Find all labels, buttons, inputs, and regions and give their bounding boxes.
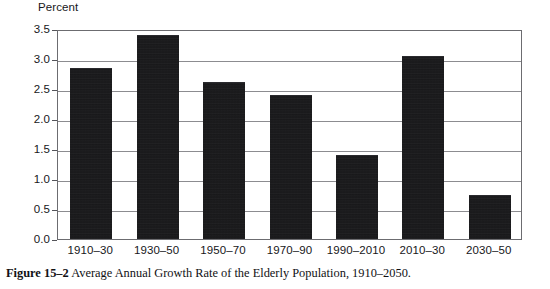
gridline xyxy=(58,61,521,62)
y-axis-tick-label: 0.5 xyxy=(4,204,50,216)
y-axis-title: Percent xyxy=(38,1,78,14)
figure-container: Percent 0.00.51.01.52.02.53.03.5 1910–30… xyxy=(0,0,550,289)
y-axis-tick-label: 0.0 xyxy=(4,234,50,246)
y-axis-tick-mark xyxy=(52,240,57,241)
x-axis-labels: 1910–301930–501950–701970–901990–2010201… xyxy=(57,243,522,261)
x-axis-tick-label: 1910–30 xyxy=(57,243,123,257)
bar xyxy=(336,155,378,239)
y-axis-labels: 0.00.51.01.52.02.53.03.5 xyxy=(0,30,50,240)
bar xyxy=(203,82,245,239)
figure-caption: Figure 15–2 Average Annual Growth Rate o… xyxy=(6,266,546,281)
y-axis-tick-label: 3.0 xyxy=(4,54,50,66)
bar xyxy=(137,35,179,239)
x-axis-tick-label: 1970–90 xyxy=(256,243,322,257)
plot-area xyxy=(57,30,522,240)
bar xyxy=(402,56,444,239)
bar xyxy=(270,95,312,239)
figure-caption-label: Figure 15–2 xyxy=(6,266,69,280)
y-axis-tick-label: 2.5 xyxy=(4,84,50,96)
y-axis-tick-label: 2.0 xyxy=(4,114,50,126)
x-axis-tick-label: 2010–30 xyxy=(389,243,455,257)
x-axis-tick-label: 1990–2010 xyxy=(323,243,389,257)
y-axis-tick-label: 1.5 xyxy=(4,144,50,156)
y-axis-tick-label: 3.5 xyxy=(4,24,50,36)
figure-caption-text: Average Annual Growth Rate of the Elderl… xyxy=(71,266,411,280)
x-axis-tick-label: 1930–50 xyxy=(123,243,189,257)
x-axis-tick-label: 2030–50 xyxy=(456,243,522,257)
bar xyxy=(469,195,511,239)
x-axis-tick-label: 1950–70 xyxy=(190,243,256,257)
y-axis-tick-label: 1.0 xyxy=(4,174,50,186)
bar xyxy=(70,68,112,239)
gridline xyxy=(58,91,521,92)
